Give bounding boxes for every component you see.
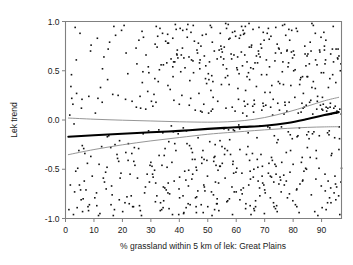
- data-point: [243, 34, 245, 36]
- data-point: [259, 56, 261, 58]
- data-point: [219, 33, 221, 35]
- data-point: [336, 186, 338, 188]
- data-point: [212, 41, 214, 43]
- data-point: [183, 57, 185, 59]
- data-point: [321, 207, 323, 209]
- data-point: [287, 197, 289, 199]
- data-point: [247, 146, 249, 148]
- data-point: [214, 156, 216, 158]
- data-point: [167, 85, 169, 87]
- data-point: [291, 30, 293, 32]
- data-point: [167, 192, 169, 194]
- data-point: [257, 180, 259, 182]
- data-point: [323, 72, 325, 74]
- data-point: [309, 157, 311, 159]
- data-point: [325, 59, 327, 61]
- data-point: [290, 85, 292, 87]
- data-point: [125, 52, 127, 54]
- data-point: [205, 65, 207, 67]
- data-point: [218, 210, 220, 212]
- data-point: [213, 194, 215, 196]
- data-point: [302, 76, 304, 78]
- data-point: [268, 172, 270, 174]
- data-point: [168, 208, 170, 210]
- data-point: [223, 58, 225, 60]
- data-point: [189, 145, 191, 147]
- data-point: [275, 165, 277, 167]
- data-point: [208, 112, 210, 114]
- data-point: [286, 49, 288, 51]
- data-point: [73, 123, 75, 125]
- y-axis-title: Lek trend: [9, 102, 19, 138]
- data-point: [119, 177, 121, 179]
- data-point: [209, 61, 211, 63]
- data-point: [195, 206, 197, 208]
- data-point: [291, 51, 293, 53]
- data-point: [322, 103, 324, 105]
- data-point: [294, 97, 296, 99]
- data-point: [123, 25, 125, 27]
- data-point: [101, 146, 103, 148]
- data-point: [138, 148, 140, 150]
- data-point: [251, 46, 253, 48]
- data-point: [305, 104, 307, 106]
- data-point: [82, 211, 84, 213]
- data-point: [154, 169, 156, 171]
- data-point: [203, 103, 205, 105]
- data-point: [164, 148, 166, 150]
- data-point: [247, 132, 249, 134]
- data-point: [229, 37, 231, 39]
- data-point: [325, 209, 327, 211]
- data-point: [332, 48, 334, 50]
- data-point: [282, 71, 284, 73]
- data-point: [215, 165, 217, 167]
- data-point: [159, 69, 161, 71]
- data-point: [297, 112, 299, 114]
- data-point: [275, 52, 277, 54]
- data-point: [232, 32, 234, 34]
- data-point: [69, 114, 71, 116]
- data-point: [301, 162, 303, 164]
- data-point: [256, 137, 258, 139]
- x-tick-label: 60: [231, 225, 241, 235]
- data-point: [68, 209, 70, 211]
- data-point: [256, 159, 258, 161]
- data-point: [141, 215, 143, 217]
- data-point: [269, 92, 271, 94]
- data-point: [161, 209, 163, 211]
- data-point: [315, 33, 317, 35]
- data-point: [249, 170, 251, 172]
- data-point: [279, 83, 281, 85]
- y-tick-label: -1.0: [45, 214, 60, 224]
- data-point: [116, 154, 118, 156]
- data-point: [246, 76, 248, 78]
- data-point: [96, 205, 98, 207]
- data-point: [335, 48, 337, 50]
- data-point: [224, 154, 226, 156]
- data-point: [224, 148, 226, 150]
- data-point: [109, 41, 111, 43]
- data-point: [188, 185, 190, 187]
- data-point: [330, 155, 332, 157]
- data-point: [337, 57, 339, 59]
- data-point: [229, 198, 231, 200]
- data-point: [316, 64, 318, 66]
- data-point: [204, 186, 206, 188]
- data-point: [256, 55, 258, 57]
- data-point: [303, 170, 305, 172]
- data-point: [327, 202, 329, 204]
- data-point: [264, 189, 266, 191]
- data-point: [279, 176, 281, 178]
- data-point: [177, 133, 179, 135]
- data-point: [201, 163, 203, 165]
- data-point: [165, 40, 167, 42]
- data-point: [306, 134, 308, 136]
- data-point: [332, 26, 334, 28]
- data-point: [129, 173, 131, 175]
- data-point: [168, 141, 170, 143]
- data-point: [300, 111, 302, 113]
- data-point: [289, 193, 291, 195]
- data-point: [292, 57, 294, 59]
- data-point: [319, 49, 321, 51]
- data-point: [187, 203, 189, 205]
